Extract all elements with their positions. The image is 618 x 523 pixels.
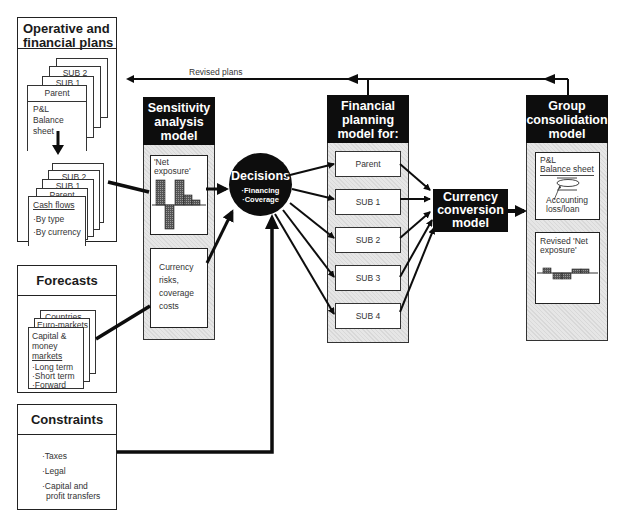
net-exposure-box: 'Net exposure': [150, 155, 208, 235]
panel-title: Forecasts: [18, 266, 116, 296]
model-title: Sensitivity analysis model: [143, 97, 215, 145]
model-title: Group consolidation model: [526, 95, 608, 143]
model-title: Financial planning model for:: [327, 95, 409, 143]
net-exposure-bar-chart: [150, 155, 208, 235]
currency-conversion-model: Currency conversion model: [433, 189, 508, 232]
entity-parent: Parent: [335, 151, 401, 177]
entity-sub1: SUB 1: [335, 189, 401, 215]
group-consolidation-model: Group consolidation model P&L Balance sh…: [526, 95, 608, 341]
revised-net-exposure-box: Revised 'Net exposure': [535, 232, 600, 304]
entity-sub3: SUB 3: [335, 265, 401, 291]
cash-flows-page: Cash flows ·By type ·By currency: [28, 196, 86, 246]
pl-balance-sheet-box: P&L Balance sheet Accounting loss/loan: [535, 152, 600, 220]
doc-page-parent: Parent P&L Balance sheet: [27, 85, 87, 151]
sensitivity-analysis-model: Sensitivity analysis model 'Net exposure…: [143, 97, 215, 340]
panel-title: Operative and financial plans: [18, 18, 116, 49]
currency-risks-box: Currency risks, coverage costs: [150, 248, 208, 328]
decisions-node: Decisions ·Financing ·Coverage: [229, 153, 292, 216]
entity-sub4: SUB 4: [335, 303, 401, 329]
panel-title: Constraints: [18, 405, 116, 435]
revised-net-exposure-bar-chart: [535, 232, 600, 304]
entity-sub2: SUB 2: [335, 227, 401, 253]
financial-planning-model: Financial planning model for: Parent SUB…: [327, 95, 409, 343]
operative-financial-plans-panel: Operative and financial plans SUB 2 SUB …: [17, 17, 117, 242]
forecasts-panel: Forecasts Countries... Euro-markets Capi…: [17, 265, 117, 393]
capital-money-markets-page: Capital & money markets ·Long term ·Shor…: [28, 327, 84, 389]
revised-plans-label: Revised plans: [189, 67, 242, 78]
constraints-list: ·Taxes ·Legal ·Capital and profit transf…: [42, 451, 100, 501]
constraints-panel: Constraints ·Taxes ·Legal ·Capital and p…: [17, 404, 117, 510]
